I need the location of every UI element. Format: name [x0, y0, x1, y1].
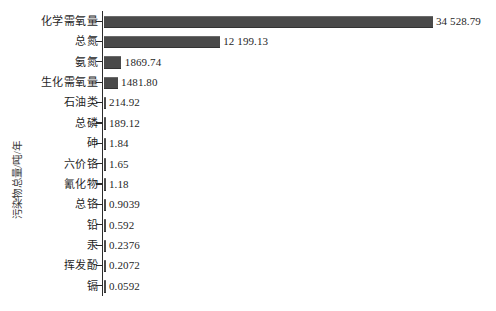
bar	[104, 199, 106, 211]
axis-tick	[96, 183, 103, 184]
category-label: 挥发酚	[14, 255, 98, 275]
axis-tick	[96, 285, 103, 286]
category-label: 石油类	[14, 92, 98, 112]
bar	[104, 280, 106, 292]
bar-row: 石油类214.92	[0, 92, 496, 112]
bar-row: 化学需氧量34 528.79	[0, 11, 496, 31]
category-label: 铅	[14, 215, 98, 235]
bar	[104, 219, 106, 231]
category-label: 砷	[14, 133, 98, 153]
bar-value-label: 1.84	[109, 133, 129, 153]
axis-tick	[96, 61, 103, 62]
bar-row: 总磷189.12	[0, 113, 496, 133]
bar	[104, 16, 433, 28]
axis-tick	[96, 41, 103, 42]
bar	[104, 260, 106, 272]
category-label: 氰化物	[14, 174, 98, 194]
category-label: 化学需氧量	[14, 11, 98, 31]
axis-tick	[96, 204, 103, 205]
pollutant-total-bar-chart: 污染物总量/吨/年 化学需氧量34 528.79总氮12 199.13氨氮186…	[0, 0, 496, 311]
bar-row: 总铬0.9039	[0, 194, 496, 214]
bar-value-label: 1.65	[109, 154, 129, 174]
category-label: 生化需氧量	[14, 72, 98, 92]
axis-tick	[96, 82, 103, 83]
axis-tick	[96, 245, 103, 246]
bar-value-label: 189.12	[109, 113, 140, 133]
bar-value-label: 34 528.79	[436, 11, 481, 31]
bar	[104, 77, 118, 89]
bar-value-label: 0.9039	[109, 194, 140, 214]
bar-value-label: 0.2376	[109, 235, 140, 255]
category-label: 汞	[14, 235, 98, 255]
axis-tick	[96, 265, 103, 266]
category-label: 总氮	[14, 31, 98, 51]
bar	[104, 158, 106, 170]
bar-value-label: 214.92	[109, 92, 140, 112]
axis-tick	[96, 102, 103, 103]
axis-tick	[96, 21, 103, 22]
bar-value-label: 0.592	[109, 215, 134, 235]
bar	[104, 36, 220, 48]
bar	[104, 178, 106, 190]
bar-row: 挥发酚0.2072	[0, 255, 496, 275]
bar-row: 汞0.2376	[0, 235, 496, 255]
category-label: 六价铬	[14, 154, 98, 174]
clipped-title-text	[238, 0, 378, 3]
axis-tick	[96, 122, 103, 123]
bar-value-label: 1481.80	[121, 72, 157, 92]
bar-row: 总氮12 199.13	[0, 31, 496, 51]
category-label: 总磷	[14, 113, 98, 133]
bar-value-label: 12 199.13	[223, 31, 268, 51]
bar-value-label: 1.18	[109, 174, 129, 194]
bar	[104, 138, 106, 150]
bar-row: 砷1.84	[0, 133, 496, 153]
bar-row: 氨氮1869.74	[0, 52, 496, 72]
bar-value-label: 1869.74	[125, 52, 161, 72]
axis-tick	[96, 163, 103, 164]
bar-value-label: 0.0592	[109, 276, 140, 296]
bar-rows-container: 化学需氧量34 528.79总氮12 199.13氨氮1869.74生化需氧量1…	[0, 11, 496, 296]
bar	[104, 56, 122, 68]
bar-value-label: 0.2072	[109, 255, 140, 275]
bar-row: 六价铬1.65	[0, 154, 496, 174]
bar	[104, 97, 106, 109]
axis-tick	[96, 224, 103, 225]
bar-row: 氰化物1.18	[0, 174, 496, 194]
category-label: 氨氮	[14, 52, 98, 72]
bar	[104, 117, 106, 129]
category-label: 总铬	[14, 194, 98, 214]
category-label: 镉	[14, 276, 98, 296]
bar-row: 镉0.0592	[0, 276, 496, 296]
bar-row: 铅0.592	[0, 215, 496, 235]
bar-row: 生化需氧量1481.80	[0, 72, 496, 92]
axis-tick	[96, 143, 103, 144]
bar	[104, 240, 106, 252]
